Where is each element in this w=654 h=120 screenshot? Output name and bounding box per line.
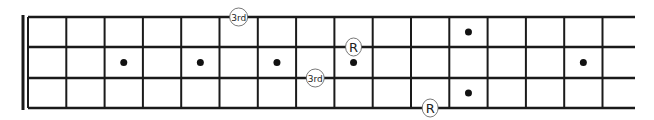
third-note-marker: 3rd xyxy=(230,8,248,26)
inlay-dot-icon xyxy=(273,59,280,66)
fret-lines xyxy=(66,17,602,108)
inlay-dot-icon xyxy=(350,59,357,66)
root-note-marker: R xyxy=(422,99,438,117)
marker-label: R xyxy=(426,101,435,116)
inlay-dot-icon xyxy=(197,59,204,66)
marker-label: 3rd xyxy=(308,74,323,84)
inlay-dot-icon xyxy=(120,59,127,66)
inlay-dot-icon xyxy=(580,59,587,66)
inlay-dot-icon xyxy=(465,90,472,97)
root-note-marker: R xyxy=(346,38,362,56)
third-note-marker: 3rd xyxy=(306,69,324,87)
marker-label: R xyxy=(349,40,358,55)
nut xyxy=(23,15,28,110)
string-lines xyxy=(28,17,635,108)
fretboard-diagram: 3rdR3rdR xyxy=(0,0,654,120)
inlay-dot-icon xyxy=(465,29,472,36)
marker-label: 3rd xyxy=(231,13,246,23)
